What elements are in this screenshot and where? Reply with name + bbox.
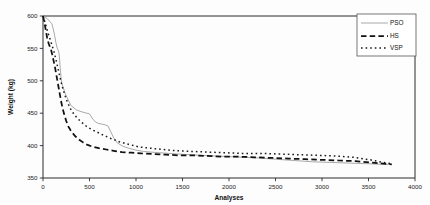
x-tick-label: 500 bbox=[84, 183, 95, 190]
y-tick-label: 500 bbox=[27, 77, 38, 84]
x-tick-label: 0 bbox=[41, 183, 45, 190]
legend-label-vsp: VSP bbox=[390, 44, 403, 51]
chart-legend: PSOHSVSP bbox=[357, 14, 416, 56]
convergence-chart-figure: 05001000150020002500300035004000 3504004… bbox=[0, 0, 430, 205]
y-tick-label: 450 bbox=[27, 109, 38, 116]
x-tick-label: 1500 bbox=[176, 183, 190, 190]
y-axis-title: Weight (kg) bbox=[7, 79, 15, 115]
legend-label-hs: HS bbox=[390, 32, 399, 39]
x-tick-label: 3000 bbox=[315, 183, 329, 190]
x-tick-label: 4000 bbox=[408, 183, 422, 190]
series-line-hs bbox=[43, 16, 392, 164]
chart-canvas: 05001000150020002500300035004000 3504004… bbox=[0, 0, 430, 205]
y-tick-label: 600 bbox=[27, 12, 38, 19]
series-line-vsp bbox=[43, 16, 392, 164]
series-line-pso bbox=[43, 16, 392, 164]
y-tick-label: 350 bbox=[27, 174, 38, 181]
x-tick-label: 1000 bbox=[129, 183, 143, 190]
x-tick-label: 2000 bbox=[222, 183, 236, 190]
y-tick-label: 550 bbox=[27, 45, 38, 52]
legend-label-pso: PSO bbox=[390, 19, 404, 26]
y-tick-label: 400 bbox=[27, 142, 38, 149]
x-axis-ticks: 05001000150020002500300035004000 bbox=[41, 178, 422, 190]
x-tick-label: 3500 bbox=[362, 183, 376, 190]
data-series-group bbox=[43, 16, 392, 164]
y-axis-ticks: 350400450500550600 bbox=[27, 12, 43, 181]
x-tick-label: 2500 bbox=[269, 183, 283, 190]
x-axis-title: Analyses bbox=[215, 194, 244, 202]
